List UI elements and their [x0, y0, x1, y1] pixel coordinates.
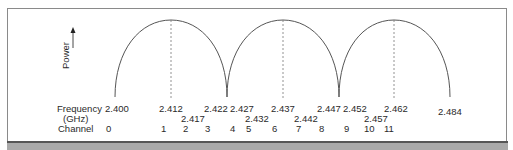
- y-axis-label: Power: [66, 24, 80, 74]
- channel-label: 5: [246, 124, 251, 134]
- frequency-label: 2.437: [271, 104, 295, 114]
- channel-label: 6: [272, 124, 277, 134]
- channel-label: 1: [161, 124, 166, 134]
- power-label: Power: [60, 42, 71, 69]
- lobe-channel-11: [339, 20, 450, 97]
- channel-label: 10: [364, 124, 375, 134]
- channel-label: 2: [183, 124, 188, 134]
- bottom-bar: [7, 141, 508, 150]
- channel-label: 3: [205, 124, 210, 134]
- frequency-label: 2.484: [438, 107, 462, 117]
- frequency-label: 2.412: [159, 104, 183, 114]
- channel-row-label: Channel: [58, 124, 93, 134]
- frequency-label: 2.422: [204, 104, 228, 114]
- channel-label: 0: [106, 124, 111, 134]
- channel-label: 7: [296, 124, 301, 134]
- frequency-label: 2.447: [317, 104, 341, 114]
- channel-label: 4: [230, 124, 235, 134]
- channel-label: 11: [384, 124, 394, 134]
- frequency-label: 2.400: [105, 104, 129, 114]
- channel-label: 9: [344, 124, 349, 134]
- channel-label: 8: [319, 124, 324, 134]
